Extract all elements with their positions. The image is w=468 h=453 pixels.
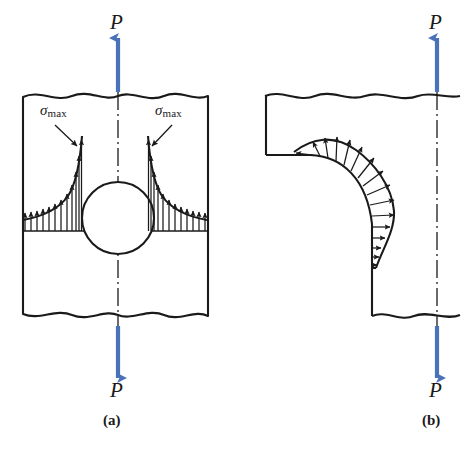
panel-b-stress-envelope bbox=[294, 140, 394, 268]
panel-b-fillet-curve bbox=[310, 155, 372, 316]
panel-b-bottom-wavy-edge bbox=[372, 314, 460, 318]
stress-concentration-figure: P P σmax σmax P P (a) (b) bbox=[0, 0, 468, 453]
panel-a-sigma-max-left-label: σmax bbox=[40, 102, 67, 119]
panel-b-top-load-label: P bbox=[429, 10, 442, 35]
panel-a-group bbox=[23, 38, 208, 378]
panel-b-bar-outline bbox=[265, 94, 460, 98]
panel-a-caption: (a) bbox=[103, 412, 121, 429]
figure-svg bbox=[0, 0, 468, 453]
panel-b-fillet-stress-arrows bbox=[296, 137, 394, 265]
panel-b-bottom-load-label: P bbox=[429, 378, 442, 403]
sigma-subscript-left: max bbox=[47, 107, 67, 119]
panel-b-caption: (b) bbox=[422, 412, 440, 429]
panel-a-left-leader bbox=[55, 125, 77, 146]
panel-a-left-envelope bbox=[23, 136, 82, 220]
panel-a-hole bbox=[82, 182, 154, 254]
panel-a-right-leader bbox=[152, 125, 172, 146]
panel-a-bottom-load-label: P bbox=[110, 378, 123, 403]
panel-a-sigma-max-right-label: σmax bbox=[155, 102, 182, 119]
panel-a-right-envelope bbox=[148, 136, 207, 220]
panel-b-group bbox=[265, 38, 460, 378]
panel-a-top-load-label: P bbox=[110, 10, 123, 35]
sigma-subscript-right: max bbox=[162, 107, 182, 119]
